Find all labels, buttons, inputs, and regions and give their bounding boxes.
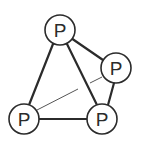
p4-tetrahedron-diagram: P P P P <box>0 0 148 141</box>
atom-label: P <box>18 109 31 130</box>
atom-right: P <box>101 53 131 83</box>
bond-top-bottom-left <box>29 44 53 105</box>
atom-label: P <box>54 20 67 41</box>
atom-label: P <box>96 109 109 130</box>
bond-top-right <box>71 38 103 60</box>
atom-label: P <box>110 58 123 79</box>
atom-bottom-right: P <box>87 104 117 134</box>
bond-right-bottom-right <box>108 83 114 105</box>
bond-back-segment-1 <box>37 89 78 110</box>
atom-bottom-left: P <box>9 104 39 134</box>
atom-top: P <box>45 15 75 45</box>
bond-back-segment-2 <box>90 77 102 83</box>
